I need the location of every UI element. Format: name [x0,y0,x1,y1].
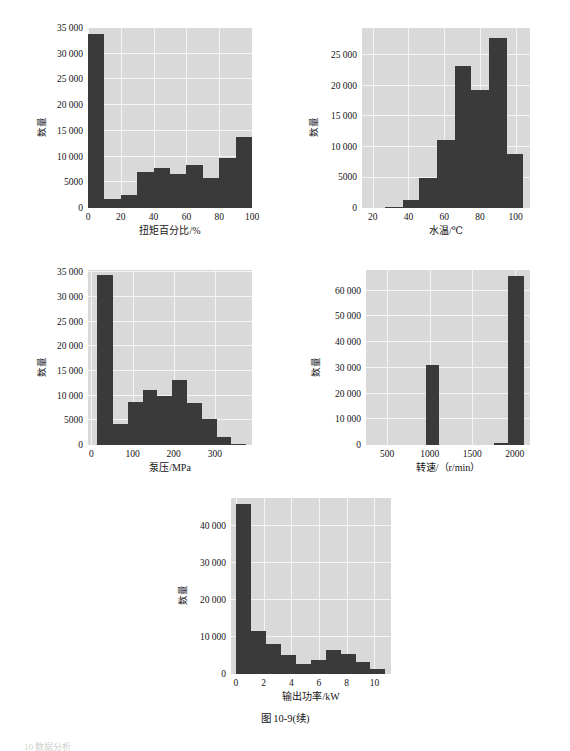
y-axis-tick-label: 30 000 [165,558,226,568]
y-axis-tick-label: 40 000 [300,337,361,347]
histogram-bar [88,34,104,208]
gridline-horizontal [231,525,391,526]
histogram-bar [471,90,489,208]
y-axis-tick-label: 40 000 [165,521,226,531]
histogram-bar [508,276,524,445]
y-axis-tick-label: 15 000 [30,366,83,376]
histogram-bar [187,403,202,445]
gridline-horizontal [231,562,391,563]
x-axis-label-torque-percent: 扭矩百分比/% [88,225,252,237]
histogram-bar [172,380,187,445]
histogram-bar [236,504,251,674]
y-axis-tick-label: 10 000 [30,391,83,401]
y-axis-tick-label: 0 [300,440,361,450]
x-axis-tick-label: 100 [111,449,155,459]
y-axis-tick-label: 20 000 [300,81,357,91]
histogram-bar [137,172,153,208]
y-axis-tick-label: 50 000 [300,311,361,321]
gridline-horizontal [88,271,252,272]
x-axis-tick-label: 1000 [408,449,452,459]
plot-area-output-power [231,498,391,674]
histogram-bar [203,178,219,208]
y-axis-tick-label: 35 000 [30,23,83,33]
page-footer-artifact: 10 数据分析 [24,742,144,751]
x-axis-tick-label: 10 [352,678,396,688]
plot-area-torque-percent [88,28,252,208]
y-axis-tick-label: 35 000 [30,267,83,277]
histogram-bar [266,644,281,674]
gridline-horizontal [88,130,252,131]
gridline-horizontal [366,418,530,419]
y-axis-tick-label: 20 000 [30,341,83,351]
x-axis-tick-label: 0 [69,449,113,459]
histogram-bar [104,199,120,208]
histogram-bar [326,650,341,674]
x-axis-tick-label: 100 [494,212,538,222]
x-axis-label-water-temperature: 水温/℃ [362,225,530,237]
histogram-bar [251,631,266,674]
x-axis-tick-label: 200 [152,449,196,459]
histogram-bar [170,174,186,208]
histogram-bar [489,38,507,208]
histogram-bar [385,207,403,208]
y-axis-tick-label: 5000 [300,172,357,182]
histogram-bar [154,168,170,208]
gridline-horizontal [366,367,530,368]
histogram-bar [186,165,202,208]
histogram-bar [219,158,235,208]
chart-panel-torque-percent: 数量 扭矩百分比/% 0500010 00015 00020 00025 000… [30,18,260,244]
y-axis-tick-label: 20 000 [300,389,361,399]
y-axis-tick-label: 30 000 [300,363,361,373]
gridline-horizontal [88,78,252,79]
histogram-bar [403,200,419,208]
histogram-bar [97,275,113,445]
y-axis-tick-label: 10 000 [30,152,83,162]
y-axis-tick-label: 25 000 [30,74,83,84]
y-axis-tick-label: 10 000 [300,414,361,424]
gridline-horizontal [88,53,252,54]
y-axis-tick-label: 15 000 [300,111,357,121]
y-axis-tick-label: 60 000 [300,286,361,296]
histogram-bar [356,662,371,674]
y-axis-tick-label: 30 000 [30,292,83,302]
histogram-bar [370,669,385,674]
y-axis-tick-label: 30 000 [30,49,83,59]
gridline-horizontal [366,290,530,291]
y-axis-tick-label: 0 [300,203,357,213]
histogram-bar [281,655,296,674]
histogram-bar [236,137,252,208]
y-axis-tick-label: 10 000 [300,142,357,152]
gridline-horizontal [88,156,252,157]
gridline-horizontal [366,393,530,394]
plot-area-water-temperature [362,28,530,208]
x-axis-tick-label: 500 [365,449,409,459]
y-axis-tick-label: 25 000 [30,317,83,327]
y-axis-tick-label: 5000 [30,415,83,425]
y-axis-tick-label: 5000 [30,177,83,187]
histogram-bar [419,178,437,208]
histogram-bar [217,437,232,445]
histogram-bar [296,664,311,674]
histogram-bar [455,66,471,208]
chart-panel-water-temperature: 数量 水温/℃ 0500010 00015 00020 00025 000204… [300,18,540,244]
histogram-bar [494,443,508,445]
histogram-bar [231,444,245,445]
gridline-horizontal [88,104,252,105]
y-axis-tick-label: 20 000 [165,595,226,605]
gridline-horizontal [366,315,530,316]
y-axis-tick-label: 15 000 [30,126,83,136]
plot-area-pump-pressure [88,270,252,445]
y-axis-tick-label: 10 000 [165,632,226,642]
histogram-bar [143,390,157,445]
chart-panel-rotation-speed: 数量 转速/（r/min） 010 00020 00030 00040 0005… [300,262,540,480]
histogram-bar [311,660,326,674]
x-axis-label-output-power: 输出功率/kW [231,691,391,703]
figure-page: 数量 扭矩百分比/% 0500010 00015 00020 00025 000… [0,0,570,751]
y-axis-tick-label: 20 000 [30,100,83,110]
histogram-bar [341,654,356,674]
plot-area-rotation-speed [366,270,530,445]
histogram-bar [202,419,217,445]
x-axis-tick-label: 1500 [450,449,494,459]
histogram-bar [437,140,455,208]
x-axis-tick-label: 2000 [493,449,537,459]
